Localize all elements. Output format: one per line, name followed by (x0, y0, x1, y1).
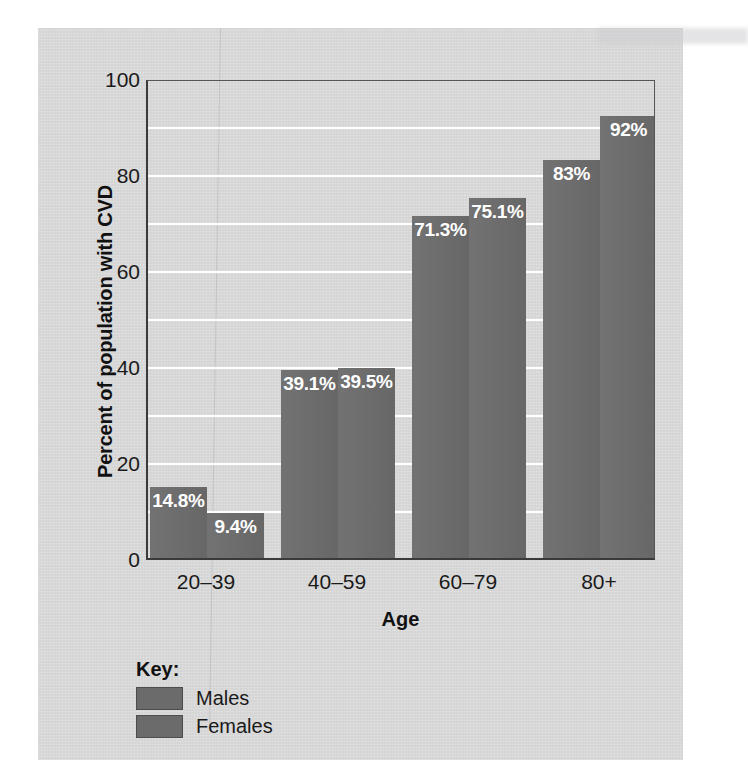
x-axis-title: Age (146, 608, 655, 631)
scan-smudge-artifact (598, 28, 748, 44)
y-tick-100: 100 (80, 69, 140, 90)
legend-label-females: Females (196, 715, 273, 738)
legend-item-females: Females (136, 715, 273, 738)
x-tick-40-59: 40–59 (279, 570, 395, 594)
bar-males-40-59: 39.1% (281, 370, 338, 558)
plot-area: 14.8% 9.4% 39.1% 39.5% 71.3% 75.1% 83% (146, 80, 655, 560)
bar-females-60-79: 75.1% (469, 198, 526, 558)
bar-males-60-79: 71.3% (412, 216, 469, 558)
bar-females-20-39: 9.4% (207, 513, 264, 558)
bar-value-label: 39.1% (281, 373, 338, 395)
legend-label-males: Males (196, 687, 249, 710)
bar-value-label: 14.8% (150, 490, 207, 512)
x-tick-80-plus: 80+ (541, 570, 657, 594)
legend-item-males: Males (136, 687, 273, 710)
legend-swatch-icon (136, 715, 183, 738)
x-tick-60-79: 60–79 (410, 570, 526, 594)
y-axis-title: Percent of population with CVD (94, 167, 117, 497)
bar-value-label: 71.3% (412, 219, 469, 241)
legend-swatch-icon (136, 687, 183, 710)
figure-panel: 100 80 60 40 20 0 Percent of population … (38, 28, 683, 760)
x-tick-20-39: 20–39 (148, 570, 264, 594)
y-tick-0: 0 (80, 549, 140, 570)
y-axis-tick-group: 100 80 60 40 20 0 Percent of population … (68, 80, 140, 560)
bar-males-80-plus: 83% (543, 160, 600, 558)
bars-layer: 14.8% 9.4% 39.1% 39.5% 71.3% 75.1% 83% (148, 81, 654, 558)
bar-value-label: 9.4% (207, 516, 264, 538)
bar-value-label: 39.5% (338, 371, 395, 393)
bar-value-label: 75.1% (469, 201, 526, 223)
bar-value-label: 92% (600, 119, 655, 141)
bar-value-label: 83% (543, 163, 600, 185)
bar-females-40-59: 39.5% (338, 368, 395, 558)
chart-legend: Key: Males Females (136, 658, 273, 738)
bar-males-20-39: 14.8% (150, 487, 207, 558)
bar-females-80-plus: 92% (600, 116, 655, 558)
legend-title: Key: (136, 658, 273, 681)
